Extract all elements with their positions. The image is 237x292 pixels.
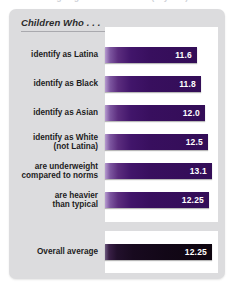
bar-identify-as-latina: 11.6 bbox=[105, 47, 197, 63]
bar-label: are underweight compared to norms bbox=[9, 162, 102, 180]
bar-label: are heavier than typical bbox=[9, 191, 102, 209]
bar-track: 12.25 bbox=[102, 190, 215, 210]
bar-identify-as-black: 11.8 bbox=[105, 76, 201, 92]
bar-are-underweight: 13.1 bbox=[105, 163, 212, 179]
table-row: identify as Latina 11.6 bbox=[9, 45, 225, 65]
table-row: are underweight compared to norms 13.1 bbox=[9, 161, 225, 181]
bar-value-label: 11.6 bbox=[175, 47, 197, 63]
bar-are-heavier: 12.25 bbox=[105, 192, 209, 208]
bar-value-label: 13.1 bbox=[190, 163, 212, 179]
bar-label: identify as White (not Latina) bbox=[9, 133, 102, 151]
table-row: are heavier than typical 12.25 bbox=[9, 190, 225, 210]
bar-label-overall: Overall average bbox=[9, 247, 102, 256]
bar-value-label: 11.8 bbox=[179, 76, 201, 92]
bar-value-label: 12.25 bbox=[182, 192, 209, 208]
bar-track: 12.0 bbox=[102, 103, 215, 123]
bar-value-label: 12.5 bbox=[186, 134, 208, 150]
bar-track: 12.25 bbox=[102, 242, 215, 262]
clipped-title-text: Average Age of First Concern (in years) bbox=[34, 0, 188, 2]
table-row: identify as White (not Latina) 12.5 bbox=[9, 132, 225, 152]
bar-overall-average: 12.25 bbox=[105, 244, 212, 260]
bar-value-label-overall: 12.25 bbox=[185, 244, 212, 260]
bar-identify-as-asian: 12.0 bbox=[105, 105, 205, 121]
bar-track: 11.6 bbox=[102, 45, 215, 65]
chart-panel: Children Who . . . identify as Latina 11… bbox=[9, 9, 225, 279]
bar-value-label: 12.0 bbox=[183, 105, 205, 121]
bar-track: 11.8 bbox=[102, 74, 215, 94]
bar-track: 13.1 bbox=[102, 161, 215, 181]
bar-label: identify as Asian bbox=[9, 108, 102, 117]
clipped-title-strip: Average Age of First Concern (in years) bbox=[0, 0, 237, 9]
table-row-overall: Overall average 12.25 bbox=[9, 242, 225, 262]
table-row: identify as Asian 12.0 bbox=[9, 103, 225, 123]
bar-identify-as-white: 12.5 bbox=[105, 134, 208, 150]
bar-label: identify as Latina bbox=[9, 50, 102, 59]
table-row: identify as Black 11.8 bbox=[9, 74, 225, 94]
bar-track: 12.5 bbox=[102, 132, 215, 152]
bar-label: identify as Black bbox=[9, 79, 102, 88]
